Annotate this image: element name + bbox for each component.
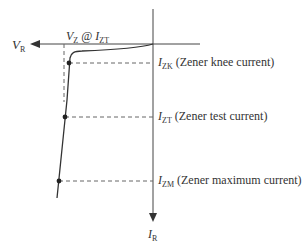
vertical-axis xyxy=(149,9,157,222)
ir-label: IR xyxy=(147,227,158,243)
izm-point xyxy=(57,179,62,184)
zener-characteristic-diagram: VR VZ @ IZT IZK (Zener knee current) IZT… xyxy=(0,0,303,248)
characteristic-curve xyxy=(57,44,153,198)
izm-label: IZM (Zener maximum current) xyxy=(157,173,302,189)
izt-point xyxy=(63,115,68,120)
vz-at-izt-label: VZ @ IZT xyxy=(66,29,109,45)
izk-point xyxy=(67,61,72,66)
vr-label: VR xyxy=(12,37,26,54)
izt-label: IZT (Zener test current) xyxy=(157,109,267,125)
arrow-down-icon xyxy=(149,213,157,222)
arrow-left-icon xyxy=(30,40,40,48)
izk-label: IZK (Zener knee current) xyxy=(157,55,274,71)
horizontal-axis xyxy=(30,40,200,48)
